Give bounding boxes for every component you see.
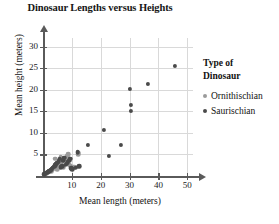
data-point-saurischian (129, 103, 133, 107)
x-tick-label: 10 (62, 180, 82, 190)
gridline-vertical (101, 38, 102, 176)
legend-title-line-1: Type of (203, 57, 279, 70)
chart-figure: Dinosaur Lengths versus Heights 51015202… (0, 0, 279, 224)
plot-area (43, 38, 193, 176)
legend-item-ornithischian[interactable]: Ornithischian (203, 89, 279, 103)
y-tick-mark (40, 111, 47, 112)
legend: Type of Dinosaur OrnithischianSaurischia… (203, 57, 279, 118)
gridline-horizontal (43, 47, 193, 48)
x-axis-line (36, 176, 200, 178)
x-tick-label: 20 (91, 180, 111, 190)
gridline-horizontal (43, 133, 193, 134)
x-tick-mark (187, 173, 188, 180)
data-point-saurischian (75, 150, 80, 155)
gridline-vertical (72, 38, 73, 176)
gridline-horizontal (43, 90, 193, 91)
gridline-horizontal (43, 68, 193, 69)
legend-marker-icon (203, 109, 207, 113)
data-point-saurischian (86, 143, 90, 147)
data-point-saurischian (102, 128, 106, 132)
y-tick-mark (40, 133, 47, 134)
data-point-saurischian (173, 64, 177, 68)
gridline-vertical (158, 38, 159, 176)
legend-item-saurischian[interactable]: Saurischian (203, 104, 279, 118)
data-point-saurischian (119, 142, 123, 146)
data-point-saurischian (146, 82, 150, 86)
data-point-saurischian (68, 157, 73, 162)
gridline-horizontal (43, 111, 193, 112)
y-axis-arrow-icon (40, 25, 48, 32)
gridline-vertical (187, 38, 188, 176)
y-tick-mark (40, 90, 47, 91)
x-tick-label: 40 (148, 180, 168, 190)
x-tick-mark (101, 173, 102, 180)
y-axis-title: Mean height (meters) (14, 10, 24, 140)
legend-marker-icon (203, 94, 207, 98)
chart-title: Dinosaur Lengths versus Heights (0, 2, 200, 13)
data-point-saurischian (77, 164, 82, 169)
data-point-saurischian (129, 109, 133, 113)
legend-label: Ornithischian (211, 91, 263, 101)
x-tick-mark (130, 173, 131, 180)
legend-title: Type of Dinosaur (203, 57, 279, 82)
x-tick-label: 50 (177, 180, 197, 190)
legend-items: OrnithischianSaurischian (203, 89, 279, 118)
x-tick-mark (72, 173, 73, 180)
y-tick-mark (40, 68, 47, 69)
legend-label: Saurischian (211, 106, 255, 116)
legend-title-line-2: Dinosaur (203, 70, 279, 83)
y-tick-mark (40, 47, 47, 48)
x-axis-title: Mean length (meters) (40, 196, 200, 206)
data-point-saurischian (107, 154, 111, 158)
x-tick-label: 30 (120, 180, 140, 190)
x-tick-mark (158, 173, 159, 180)
y-tick-mark (40, 154, 47, 155)
x-axis-arrow-icon (199, 173, 206, 181)
